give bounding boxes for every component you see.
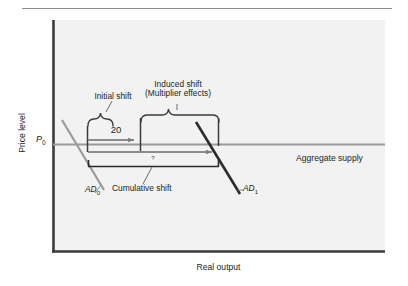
- induced-shift-brace: [141, 109, 219, 122]
- price-level-tick-label: P0: [36, 134, 46, 146]
- ad1-label: AD1: [243, 184, 258, 195]
- ad1-letters: AD: [243, 183, 255, 193]
- aggregate-supply-label: Aggregate supply: [296, 154, 363, 164]
- cumulative-shift-label: Cumulative shift: [112, 184, 172, 193]
- cumulative-shift-leader: [143, 167, 152, 184]
- induced-shift-line2: (Multiplier effects): [145, 88, 211, 98]
- ad0-label: AD0: [85, 185, 100, 196]
- initial-shift-leader: [106, 101, 112, 112]
- induced-shift-label: Induced shift (Multiplier effects): [132, 80, 224, 99]
- ad0-letters: AD: [85, 184, 97, 194]
- y-axis-label: Price level: [17, 96, 27, 170]
- cumulative-shift-marker: ?: [145, 155, 161, 161]
- x-axis-label: Real output: [52, 262, 385, 272]
- ad1-subscript: 1: [255, 189, 258, 195]
- ad0-subscript: 0: [97, 190, 100, 196]
- p0-subscript: 0: [42, 139, 46, 146]
- initial-shift-value-label: 20: [96, 124, 136, 135]
- diagram-artwork: [0, 0, 408, 286]
- figure-container: Price level Real output P0 Initial shift…: [0, 0, 408, 286]
